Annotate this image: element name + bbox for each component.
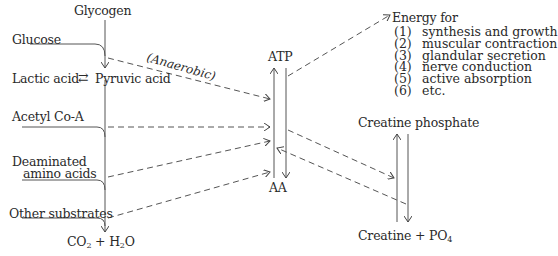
aa-label: AA <box>269 181 287 195</box>
atp-creatine-arrow <box>288 130 394 178</box>
amino-atp-arrow <box>108 141 270 177</box>
energy-uses-list: (1)synthesis and growth (2)muscular cont… <box>394 26 558 97</box>
other-atp-arrow <box>108 172 270 218</box>
amino-feeder <box>22 180 105 190</box>
creatine-aa-arrow <box>277 148 406 204</box>
acetyl-coa-label: Acetyl Co-A <box>12 110 84 124</box>
energy-title: Energy for <box>392 11 458 25</box>
energy-item: (5)active absorption <box>394 73 558 85</box>
atp-energy-arrow <box>288 15 390 76</box>
energy-item: (6)etc. <box>394 85 558 97</box>
glycogen-label: Glycogen <box>74 4 131 18</box>
lactic-acid-label: Lactic acid <box>12 72 79 86</box>
deaminated-label-2: amino acids <box>23 167 97 181</box>
creatine-po4-label: Creatine + PO4 <box>358 229 452 247</box>
creatine-phosphate-label: Creatine phosphate <box>358 116 479 130</box>
acetyl-feeder <box>22 127 105 137</box>
glucose-label: Glucose <box>12 33 61 47</box>
reversible-arrow-icon: ⇄ <box>78 71 88 85</box>
co2-h2o-label: CO2 + H2O <box>67 235 135 253</box>
atp-label: ATP <box>268 50 293 64</box>
other-substrates-label: Other substrates <box>9 207 113 221</box>
pyruvic-acid-label: Pyruvic acid <box>95 72 171 86</box>
